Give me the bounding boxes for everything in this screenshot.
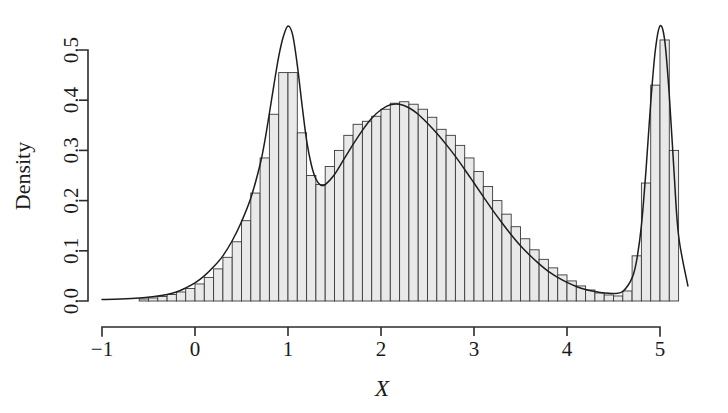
- y-axis-tick-label: 0.2: [59, 187, 83, 213]
- histogram-bar: [446, 135, 455, 301]
- histogram-bar: [167, 294, 176, 301]
- histogram-bar: [353, 124, 362, 301]
- histogram-bar: [251, 193, 260, 301]
- histogram-bar: [214, 269, 223, 301]
- histogram-bar: [279, 73, 288, 301]
- histogram-bar: [297, 133, 306, 301]
- y-axis-tick-label: 0.4: [59, 87, 83, 114]
- histogram-bar: [400, 102, 409, 301]
- histogram-bar: [604, 295, 613, 301]
- histogram-bar: [651, 85, 660, 301]
- histogram-bar: [260, 158, 269, 301]
- histogram-bar: [344, 135, 353, 301]
- histogram-bar: [139, 299, 148, 301]
- histogram-bar: [232, 242, 241, 301]
- histogram-bar: [641, 183, 650, 301]
- histogram-bar: [465, 158, 474, 301]
- histogram-bar: [223, 257, 232, 301]
- histogram-bars: [139, 40, 678, 301]
- histogram-bar: [307, 176, 316, 302]
- histogram-bar: [381, 109, 390, 301]
- x-axis: −1012345: [91, 327, 665, 361]
- histogram-bar: [511, 227, 520, 301]
- histogram-bar: [418, 109, 427, 301]
- histogram-bar: [437, 129, 446, 301]
- x-axis-title: X: [374, 376, 390, 401]
- y-axis-tick-label: 0.0: [59, 288, 83, 314]
- x-axis-tick-label: 3: [469, 337, 480, 361]
- y-axis: 0.00.10.20.30.40.5: [59, 37, 88, 314]
- histogram-bar: [623, 291, 632, 301]
- y-axis-tick-label: 0.5: [59, 37, 83, 63]
- histogram-bar: [409, 104, 418, 301]
- histogram-bar: [195, 284, 204, 301]
- histogram-bar: [390, 103, 399, 301]
- x-axis-tick-label: 2: [376, 337, 387, 361]
- x-axis-tick-label: 4: [562, 337, 573, 361]
- histogram-bar: [269, 114, 278, 301]
- histogram-bar: [176, 292, 185, 301]
- histogram-bar: [595, 293, 604, 301]
- y-axis-tick-label: 0.1: [59, 238, 83, 264]
- plot-canvas: −1012345 0.00.10.20.30.40.5 X Density: [0, 0, 728, 413]
- histogram-bar: [428, 117, 437, 301]
- histogram-bar: [204, 277, 213, 301]
- histogram-bar: [316, 185, 325, 301]
- x-axis-tick-label: 5: [655, 337, 666, 361]
- histogram-bar: [149, 298, 158, 301]
- x-axis-tick-label: −1: [91, 337, 113, 361]
- histogram-bar: [362, 121, 371, 301]
- y-axis-title: Density: [10, 142, 35, 210]
- x-axis-tick-label: 0: [190, 337, 201, 361]
- histogram-bar: [325, 166, 334, 301]
- histogram-bar: [242, 221, 251, 301]
- histogram-bar: [614, 296, 623, 301]
- x-axis-tick-label: 1: [283, 337, 294, 361]
- histogram-figure: −1012345 0.00.10.20.30.40.5 X Density: [0, 0, 728, 413]
- histogram-bar: [502, 214, 511, 301]
- y-axis-tick-label: 0.3: [59, 137, 83, 163]
- histogram-bar: [288, 73, 297, 301]
- histogram-bar: [158, 296, 167, 301]
- histogram-bar: [186, 288, 195, 301]
- histogram-bar: [372, 116, 381, 301]
